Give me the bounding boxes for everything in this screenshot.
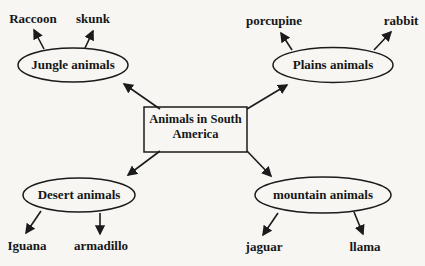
leaf-label-iguana: Iguana	[7, 238, 47, 253]
edge-center-to-desert	[128, 151, 160, 175]
leaf-label-llama: llama	[349, 239, 381, 254]
center-node-label-line2: America	[173, 127, 220, 141]
leaf-label-porcupine: porcupine	[246, 13, 302, 28]
branch-label-jungle: Jungle animals	[31, 57, 114, 72]
edge-jungle-to-skunk	[85, 31, 93, 48]
branch-label-plains: Plains animals	[293, 57, 374, 72]
edge-desert-to-iguana	[26, 211, 41, 233]
edge-center-to-plains	[247, 85, 287, 109]
leaf-label-armadillo: armadillo	[74, 238, 128, 253]
edge-center-to-mountain	[247, 151, 271, 176]
branch-label-desert: Desert animals	[38, 187, 121, 202]
edge-plains-to-rabbit	[374, 32, 391, 50]
leaf-label-rabbit: rabbit	[384, 13, 419, 28]
concept-map-canvas: Animals in South America Jungle animals …	[0, 0, 425, 266]
edge-jungle-to-raccoon	[34, 30, 44, 49]
concept-map-diagram: Animals in South America Jungle animals …	[0, 0, 425, 266]
leaf-label-raccoon: Raccoon	[9, 11, 57, 26]
center-node-label-line1: Animals in South	[149, 112, 241, 126]
edge-center-to-jungle	[124, 84, 160, 109]
branch-label-mountain: mountain animals	[273, 187, 373, 202]
leaf-label-skunk: skunk	[76, 11, 111, 26]
edge-mountain-to-jaguar	[263, 213, 278, 235]
leaf-label-jaguar: jaguar	[245, 239, 283, 254]
edge-plains-to-porcupine	[281, 33, 292, 50]
edge-mountain-to-llama	[354, 212, 363, 234]
